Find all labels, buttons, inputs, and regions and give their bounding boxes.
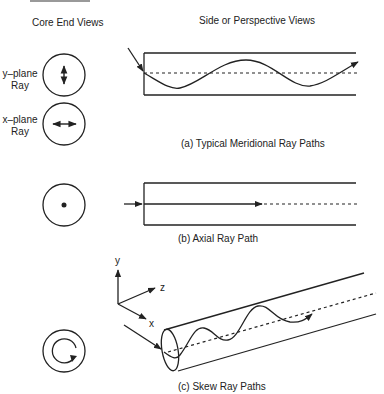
skew-fiber <box>124 273 376 372</box>
coordinate-axes <box>118 270 155 319</box>
meridional-fiber <box>128 48 358 95</box>
diagram-canvas <box>0 0 384 394</box>
axial-fiber <box>124 183 358 225</box>
end-view-x-plane <box>43 103 85 145</box>
end-view-skew <box>43 330 85 372</box>
end-view-y-plane <box>43 54 85 96</box>
end-view-axial <box>43 184 85 226</box>
